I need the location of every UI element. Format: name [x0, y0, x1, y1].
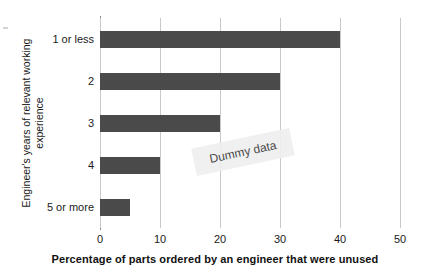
bar: [100, 31, 340, 48]
bar: [100, 157, 160, 174]
y-axis-tick-label: 4: [0, 159, 100, 171]
gridline-50: [400, 18, 401, 228]
y-axis-tick-label: 1 or less: [0, 33, 100, 45]
x-axis-tick-label: 20: [214, 233, 226, 245]
x-axis-tick-label: 50: [394, 233, 406, 245]
x-axis-tick-label: 40: [334, 233, 346, 245]
scan-artifact: [3, 27, 8, 29]
x-axis-tick-label: 0: [97, 233, 103, 245]
y-axis-tick-label: 3: [0, 117, 100, 129]
gridline-40: [340, 18, 341, 228]
bar-chart: experience Engineer's years of relevant …: [0, 0, 430, 274]
x-axis-title: Percentage of parts ordered by an engine…: [0, 253, 430, 265]
plot-area: [100, 18, 400, 228]
y-axis-tick-label: 5 or more: [0, 201, 100, 213]
x-axis-tick-label: 30: [274, 233, 286, 245]
bar: [100, 73, 280, 90]
gridline-30: [280, 18, 281, 228]
gridline-20: [220, 18, 221, 228]
bar: [100, 115, 220, 132]
x-axis-tick-label: 10: [154, 233, 166, 245]
bar: [100, 199, 130, 216]
y-axis-tick-label: 2: [0, 75, 100, 87]
